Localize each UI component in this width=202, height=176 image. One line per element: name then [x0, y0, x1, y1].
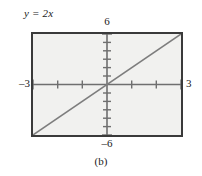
- y-axis-min-label: –6: [96, 138, 118, 149]
- equation-label: y = 2x: [24, 7, 53, 19]
- plot-area: [31, 32, 183, 137]
- x-axis-min-label: –3: [10, 78, 30, 89]
- figure-caption: (b): [0, 155, 202, 167]
- y-axis-max-label: 6: [99, 16, 115, 27]
- coordinate-plane-svg: [33, 34, 181, 135]
- graph-figure: y = 2x 6 –6 –3 3: [0, 0, 202, 176]
- x-axis-max-label: 3: [186, 78, 200, 89]
